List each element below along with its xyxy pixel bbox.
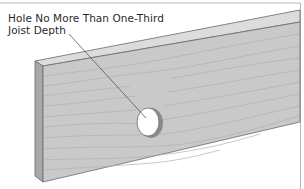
board-end-face	[35, 61, 43, 182]
callout-label: Hole No More Than One-Third Joist Depth	[8, 12, 164, 36]
callout-line-2: Joist Depth	[8, 24, 164, 36]
board-front-face	[43, 22, 300, 182]
illustration: Hole No More Than One-Third Joist Depth	[0, 0, 304, 189]
callout-line-1: Hole No More Than One-Third	[8, 12, 164, 24]
